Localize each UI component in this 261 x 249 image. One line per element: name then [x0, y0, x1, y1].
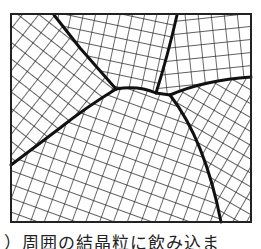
grain-structure-diagram [0, 0, 261, 226]
figure-caption: ）周囲の結晶粒に飲み込ま [0, 229, 261, 249]
